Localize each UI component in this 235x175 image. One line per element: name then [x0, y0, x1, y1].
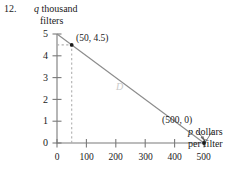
y-tick-label-1: 1 — [36, 116, 48, 126]
y-tick-label-5: 5 — [36, 29, 48, 39]
demand-curve-line — [57, 34, 204, 143]
x-axis-title-line2: per filter — [188, 138, 223, 150]
x-tick-label-200: 200 — [105, 152, 126, 162]
x-axis-title-line1: p dollars — [188, 126, 223, 138]
figure-container: 12. q thousand filters — [0, 0, 235, 175]
x-tick-label-300: 300 — [135, 152, 156, 162]
x-tick-label-0: 0 — [50, 152, 64, 162]
annotation-point-50-4p5: (50, 4.5) — [76, 33, 108, 44]
x-tick-label-400: 400 — [164, 152, 185, 162]
y-tick-label-0: 0 — [36, 138, 48, 148]
x-axis-title-rest: dollars — [193, 126, 223, 137]
data-point-marker-50-4p5 — [70, 43, 74, 47]
x-tick-label-100: 100 — [76, 152, 97, 162]
y-tick-label-4: 4 — [36, 51, 48, 61]
curve-label-d: D — [116, 81, 123, 92]
y-tick-label-2: 2 — [36, 95, 48, 105]
annotation-point-500-0: (500, 0) — [162, 115, 192, 126]
y-tick-label-3: 3 — [36, 73, 48, 83]
x-tick-label-500: 500 — [193, 152, 214, 162]
